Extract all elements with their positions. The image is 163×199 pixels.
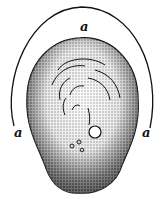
nucleus [89, 126, 101, 138]
label-a-left: a [14, 126, 22, 139]
label-a-top: a [80, 20, 88, 33]
label-a-right: a [142, 126, 150, 139]
